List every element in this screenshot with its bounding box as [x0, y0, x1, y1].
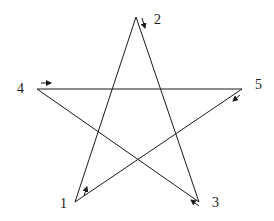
- arrow-icon: [233, 95, 240, 101]
- edge-3-4: [37, 89, 199, 202]
- vertex-label-3: 3: [212, 195, 219, 210]
- edge-5-1: [75, 89, 242, 202]
- pentagram-diagram: 12345: [0, 0, 274, 221]
- vertex-label-1: 1: [60, 196, 67, 211]
- edge-2-3: [136, 17, 199, 202]
- vertex-labels: 12345: [17, 12, 262, 211]
- arrow-icon: [142, 18, 145, 28]
- vertex-label-5: 5: [255, 77, 262, 92]
- edge-1-2: [75, 17, 136, 202]
- vertex-label-2: 2: [154, 12, 161, 27]
- star-edges: [37, 17, 242, 202]
- vertex-label-4: 4: [17, 81, 24, 96]
- direction-arrows: [41, 18, 240, 206]
